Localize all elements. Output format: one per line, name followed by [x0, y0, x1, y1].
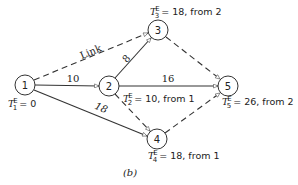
node-5: 5: [218, 76, 238, 96]
time-label-node-1: TE1= 0: [8, 97, 36, 112]
network-diagram: Link 10 18 8 16 1 2 3 4 5 TE1= 0 TE2= 10…: [0, 0, 298, 185]
node-1: 1: [15, 75, 35, 95]
figure-caption: (b): [123, 167, 137, 178]
time-label-node-2: TE2= 10, from 1: [123, 92, 195, 107]
edge-1-2: [35, 85, 99, 86]
node-5-label: 5: [225, 81, 231, 92]
edge-label-1-2: 10: [67, 73, 80, 84]
time-label-node-5: TE5= 26, from 2: [222, 95, 294, 110]
node-2-label: 2: [106, 81, 112, 92]
node-1-label: 1: [22, 80, 28, 91]
node-3-label: 3: [155, 25, 161, 36]
node-4-label: 4: [154, 134, 160, 145]
edge-label-1-3: Link: [78, 42, 104, 61]
time-label-node-4: TE4= 18, from 1: [148, 149, 220, 164]
time-label-node-3: TE3= 18, from 2: [150, 5, 222, 20]
node-2: 2: [99, 76, 119, 96]
edge-label-2-3: 8: [120, 53, 132, 65]
edge-label-2-5: 16: [162, 73, 175, 84]
edge-label-1-4: 18: [93, 100, 109, 115]
node-3: 3: [148, 20, 168, 40]
node-4: 4: [147, 129, 167, 149]
